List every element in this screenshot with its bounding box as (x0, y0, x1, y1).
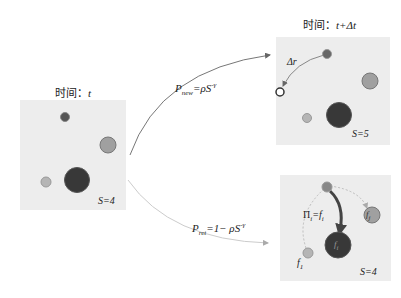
top-right-panel-bg (276, 37, 390, 145)
left-s-label: S=4 (98, 196, 115, 206)
diagram-graphics (0, 0, 401, 298)
f1-label: f1 (297, 258, 303, 268)
medium-gray-node (100, 137, 116, 153)
pi-label: Πi=fi (303, 210, 324, 220)
p-new-label: Pnew=ρS-γ (175, 83, 216, 94)
small-gray-node (41, 177, 51, 187)
diagram-canvas: 时间：t S=4 时间：t+Δt Δr S=5 Πi=fi fj fi f1 S… (0, 0, 401, 298)
explore-arrow (130, 55, 270, 155)
p-ret-label: Pret=1− ρS-γ (192, 223, 245, 234)
new-location-node (276, 88, 284, 96)
large-dark-node (65, 168, 90, 193)
top-right-time-label: 时间：t+Δt (303, 20, 356, 31)
fj-label: fj (366, 210, 370, 219)
delta-r-label: Δr (287, 57, 297, 67)
left-panel-bg (20, 100, 126, 210)
fi-label: fi (334, 240, 338, 249)
bottom-right-s-label: S=4 (360, 267, 377, 277)
left-time-label: 时间：t (55, 88, 91, 99)
top-right-s-label: S=5 (352, 129, 369, 139)
small-dark-node (61, 113, 70, 122)
